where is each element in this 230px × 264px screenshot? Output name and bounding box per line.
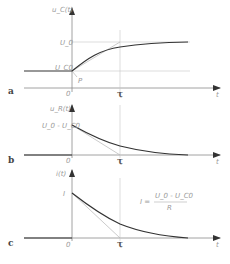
origin-label-a: 0 [66,90,71,98]
ur-start-label: U_0 - U_C0 [42,122,81,130]
uc-curve [24,42,188,71]
formula-lhs: I = [140,198,150,206]
panel-b: u_R(t) U_0 - U_C0 b 0 τ t [8,105,220,166]
tau-label-a: τ [117,89,123,99]
panel-c: i(t) I I = U_0 - U_C0 R c 0 τ t [8,170,220,249]
tangent-a [72,42,120,71]
tangent-c [72,193,120,238]
panel-a: u_C(t) U_0 U_C0 P a 0 τ t [8,6,220,99]
y-label-a: u_C(t) [52,6,73,14]
origin-label-c: 0 [66,241,71,249]
formula-denominator: R [167,204,172,212]
tau-label-b: τ [117,156,123,166]
rc-transient-diagram: u_C(t) U_0 U_C0 P a 0 τ t u_R(t) U_0 - U… [0,0,230,264]
formula-numerator: U_0 - U_C0 [155,192,194,200]
ur-curve [72,125,188,155]
origin-label-b: 0 [66,157,71,165]
panel-label-b: b [8,155,14,165]
y-label-b: u_R(t) [50,105,71,113]
tau-label-c: τ [117,239,123,249]
formula: I = U_0 - U_C0 R [140,192,194,212]
panel-label-a: a [8,86,14,96]
u0-label: U_0 [60,39,74,47]
point-p-label: P [78,77,83,85]
x-label-c: t [216,241,219,249]
i-start-label: I [63,190,65,198]
x-label-b: t [216,158,219,166]
panel-label-c: c [8,238,14,248]
y-label-c: i(t) [56,170,66,178]
uc0-label: U_C0 [55,64,74,72]
x-label-a: t [216,91,219,99]
